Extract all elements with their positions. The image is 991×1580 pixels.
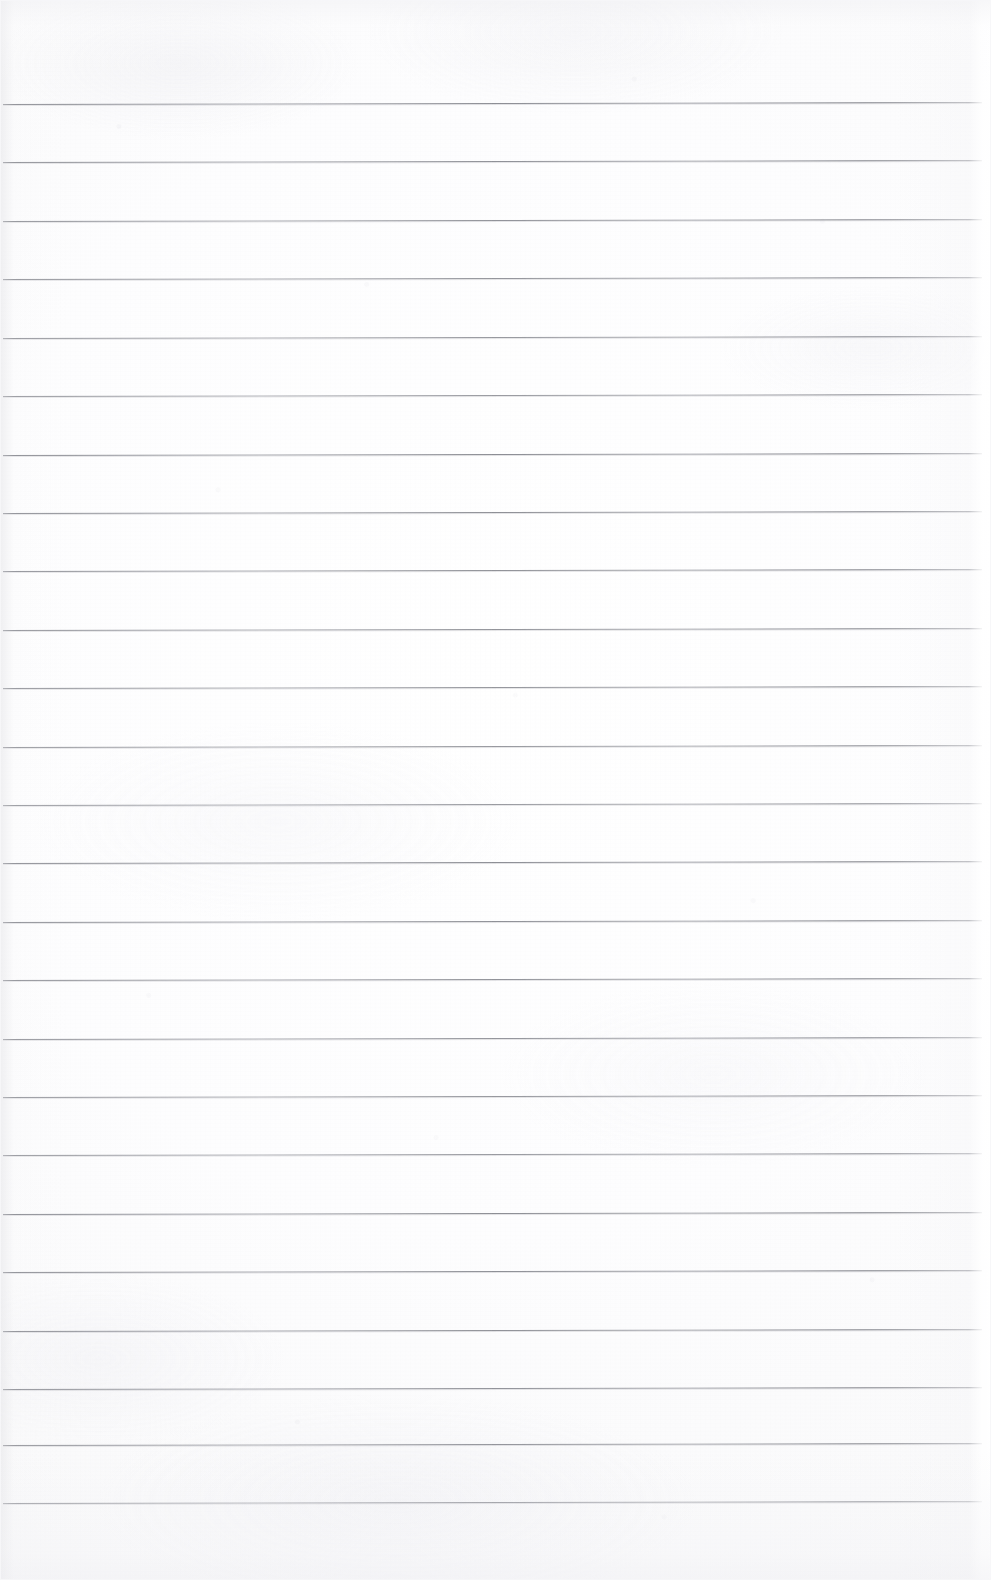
scanned-ruled-paper — [0, 0, 991, 1580]
paper-background — [0, 0, 991, 1580]
